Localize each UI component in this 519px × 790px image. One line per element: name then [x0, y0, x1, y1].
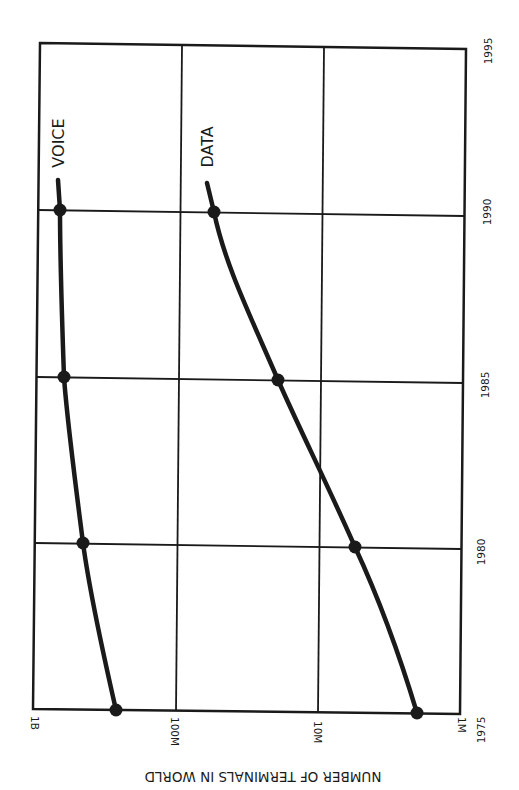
data-series-label: DATA: [198, 126, 217, 167]
terminals-chart: VOICE DATA 1B 100M 10M 1M 1975 1980 1985…: [0, 0, 519, 790]
data-point-1990: [208, 206, 221, 219]
voice-point-1975: [110, 704, 123, 717]
gridline-1985: [37, 377, 463, 383]
axis-title: NUMBER OF TERMINALS IN WORLD: [145, 769, 382, 785]
data-point-1985: [272, 374, 285, 387]
voice-point-1985: [58, 371, 71, 384]
tick-label-1985: 1985: [479, 372, 491, 399]
voice-series-line: [58, 180, 116, 710]
gridline-10m: [318, 47, 324, 713]
tick-label-1980: 1980: [475, 539, 487, 566]
voice-point-1980: [77, 537, 90, 550]
tick-label-1975: 1975: [475, 717, 487, 744]
tick-label-10m: 10M: [312, 721, 324, 743]
voice-series-markers: [54, 204, 123, 717]
voice-series-label: VOICE: [49, 118, 68, 167]
tick-label-1b: 1B: [29, 716, 41, 730]
gridline-1980: [35, 543, 461, 549]
tick-label-1995: 1995: [482, 38, 494, 65]
voice-point-1990: [54, 204, 67, 217]
data-series-line: [207, 183, 417, 713]
gridline-100m: [176, 45, 182, 711]
tick-label-100m: 100M: [169, 717, 181, 746]
tick-label-1990: 1990: [481, 199, 493, 226]
tick-label-1m: 1M: [456, 717, 468, 733]
data-point-1975: [411, 707, 424, 720]
data-point-1980: [349, 541, 362, 554]
gridline-1990: [38, 210, 464, 216]
